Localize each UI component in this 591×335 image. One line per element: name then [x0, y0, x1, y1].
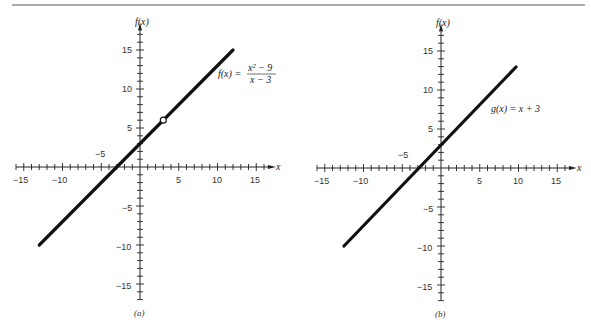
panel-b-formula: g(x) = x + 3 — [491, 103, 540, 115]
panel-a-formula-lhs: f(x) = — [218, 68, 241, 80]
panel-b-y-axis-title: f(x) — [436, 17, 451, 29]
panel-b-axes — [317, 24, 577, 301]
panel-a-x-axis-title: x — [275, 161, 281, 172]
panel-b-y-tick-label: 10 — [423, 85, 433, 95]
panel-b: f(x) x g(x) = x + 3 −5 −15 −10 5 10 15 1… — [314, 17, 582, 319]
panel-b-x-axis-title: x — [576, 162, 582, 173]
panel-a-formula-numerator: x² − 9 — [247, 62, 272, 73]
panel-a-y-tick-label: 10 — [122, 84, 132, 94]
x-axis-arrow-icon — [569, 166, 577, 170]
panel-b-stray-label: −5 — [398, 150, 408, 160]
panel-a-y-tick-label: −15 — [116, 281, 131, 291]
panel-b-caption: (b) — [435, 309, 446, 319]
panel-b-y-tick-label: 15 — [423, 46, 433, 56]
panel-b-x-tick-label: −15 — [314, 176, 329, 186]
panel-a-x-tick-label: 5 — [176, 175, 181, 185]
panel-a-axes — [16, 23, 276, 300]
panel-b-y-tick-label: 5 — [428, 124, 433, 134]
panel-a-x-tick-label: −15 — [13, 175, 28, 185]
panel-b-x-tick-label: 5 — [477, 176, 482, 186]
panel-a-function-line — [39, 50, 233, 245]
panel-b-x-tick-label: 15 — [551, 176, 561, 186]
panel-b-y-tick-label: −5 — [423, 204, 433, 214]
panel-a-x-tick-label: 15 — [250, 175, 260, 185]
panel-b-x-tick-label: 10 — [513, 176, 523, 186]
panel-a-y-tick-label: −10 — [116, 242, 131, 252]
panel-a-hole-marker — [160, 117, 166, 123]
panel-a-y-tick-label: 5 — [127, 123, 132, 133]
panel-a-x-tick-label: 10 — [212, 175, 222, 185]
panel-b-x-tick-label: −10 — [353, 176, 368, 186]
x-axis-arrow-icon — [268, 165, 276, 169]
panel-a-y-tick-label: −5 — [122, 203, 132, 213]
panel-a-y-tick-label: 15 — [122, 45, 132, 55]
panel-a-x-tick-label: −10 — [52, 175, 67, 185]
panel-a-stray-label: −5 — [95, 149, 105, 159]
panel-a-formula-denominator: x − 3 — [249, 74, 271, 85]
panel-a-caption: (a) — [134, 308, 145, 318]
panel-a: f(x) x f(x) = x² − 9 x − 3 −5 −15 −10 5 … — [13, 16, 281, 318]
figure-canvas: f(x) x f(x) = x² − 9 x − 3 −5 −15 −10 5 … — [0, 0, 591, 335]
panel-b-y-tick-label: −15 — [417, 282, 432, 292]
panel-a-y-axis-title: f(x) — [135, 16, 150, 28]
panel-b-y-tick-label: −10 — [417, 243, 432, 253]
